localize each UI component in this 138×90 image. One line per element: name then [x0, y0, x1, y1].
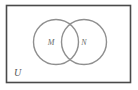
- universal-set-rectangle-border: [7, 6, 131, 83]
- set-label-m: M: [47, 38, 56, 47]
- universal-set-label: U: [14, 67, 22, 78]
- set-label-n: N: [80, 38, 87, 47]
- venn-diagram-figure: M N U: [0, 0, 138, 90]
- venn-diagram-canvas: M N U: [0, 0, 138, 90]
